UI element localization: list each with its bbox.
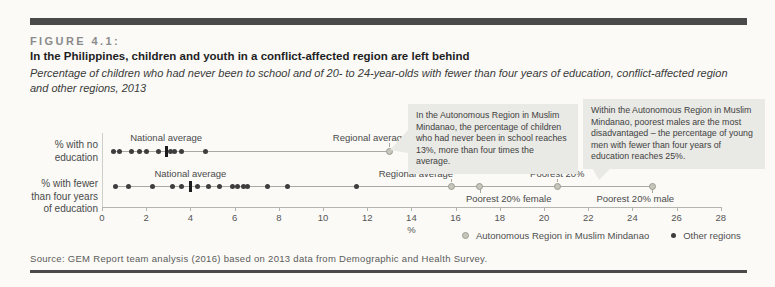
other-region-dot: [217, 184, 222, 189]
other-region-dot: [170, 184, 175, 189]
national-average-label: National average: [130, 132, 202, 143]
x-axis-tick: [721, 207, 722, 211]
x-axis-tick: [235, 207, 236, 211]
x-axis-tick-label: 20: [539, 212, 550, 223]
x-axis-tick-label: 10: [318, 212, 329, 223]
armm-marker-dot: [554, 183, 561, 190]
legend-item-other-regions: Other regions: [671, 230, 741, 241]
x-axis-tick: [279, 207, 280, 211]
other-region-dot: [285, 184, 290, 189]
other-region-dot: [111, 149, 116, 154]
x-axis-tick: [632, 207, 633, 211]
other-region-dot: [156, 149, 161, 154]
x-axis-unit-label: %: [407, 224, 415, 235]
other-region-dot: [230, 184, 235, 189]
row-label-fewer-four-years: % with fewer than four years of educatio…: [24, 178, 98, 216]
x-axis-tick-label: 0: [99, 212, 104, 223]
armm-marker-label: Poorest 20% female: [466, 193, 552, 204]
x-axis-tick: [588, 207, 589, 211]
other-region-dot: [179, 184, 184, 189]
other-region-dot: [150, 184, 155, 189]
armm-marker-icon: [462, 232, 469, 239]
x-axis-tick-label: 16: [450, 212, 461, 223]
row-connector-line: [113, 151, 389, 152]
y-axis-line: [102, 133, 103, 207]
x-axis-tick: [146, 207, 147, 211]
x-axis-tick-label: 6: [232, 212, 237, 223]
x-axis-tick-label: 22: [583, 212, 594, 223]
armm-marker-dot: [649, 183, 656, 190]
x-axis-tick: [456, 207, 457, 211]
national-average-label: National average: [154, 168, 226, 179]
national-average-tick: [165, 146, 168, 157]
row-label-no-education: % with no education: [24, 139, 98, 164]
x-axis-tick-label: 2: [144, 212, 149, 223]
armm-marker-label: Poorest 20% male: [596, 193, 674, 204]
x-axis-tick: [677, 207, 678, 211]
armm-marker-stem: [557, 179, 558, 182]
armm-marker-dot: [476, 183, 483, 190]
bottom-rule-bar: [30, 270, 747, 273]
other-region-dot: [265, 184, 270, 189]
chart-legend: Autonomous Region in Muslim Mindanao Oth…: [462, 230, 741, 241]
other-region-dot: [126, 184, 131, 189]
armm-marker-label: Regional average: [333, 132, 407, 143]
other-region-dot: [117, 149, 122, 154]
source-note: Source: GEM Report team analysis (2016) …: [30, 253, 487, 264]
armm-marker-stem: [451, 179, 452, 182]
x-axis-tick: [500, 207, 501, 211]
armm-marker-dot: [448, 183, 455, 190]
armm-marker-stem: [389, 143, 390, 147]
x-axis-tick-label: 18: [495, 212, 506, 223]
legend-label-other-regions: Other regions: [683, 230, 741, 241]
other-region-dot: [206, 184, 211, 189]
other-region-dot: [137, 149, 142, 154]
other-region-dot: [144, 149, 149, 154]
x-axis-tick: [544, 207, 545, 211]
legend-label-armm: Autonomous Region in Muslim Mindanao: [476, 230, 649, 241]
x-axis-tick-label: 28: [716, 212, 727, 223]
national-average-tick: [189, 181, 192, 192]
figure-panel: FIGURE 4.1: In the Philippines, children…: [0, 0, 775, 287]
x-axis-tick-label: 4: [188, 212, 193, 223]
other-region-dot: [235, 184, 240, 189]
x-axis-tick-label: 26: [671, 212, 682, 223]
x-axis-tick: [411, 207, 412, 211]
other-region-dot: [113, 184, 118, 189]
x-axis-tick: [323, 207, 324, 211]
other-region-dot: [245, 184, 250, 189]
annotation-never-in-school: In the Autonomous Region in Muslim Minda…: [408, 104, 578, 174]
other-region-dot: [172, 149, 177, 154]
x-axis-tick-label: 24: [627, 212, 638, 223]
other-regions-marker-icon: [671, 233, 676, 238]
other-region-dot: [179, 149, 184, 154]
annotation-poorest-males: Within the Autonomous Region in Muslim M…: [583, 99, 765, 169]
x-axis-tick: [367, 207, 368, 211]
x-axis-tick-label: 14: [406, 212, 417, 223]
other-region-dot: [129, 149, 134, 154]
other-region-dot: [354, 184, 359, 189]
other-region-dot: [203, 149, 208, 154]
other-region-dot: [195, 184, 200, 189]
armm-marker-dot: [386, 148, 393, 155]
x-axis-tick: [102, 207, 103, 211]
legend-item-armm: Autonomous Region in Muslim Mindanao: [462, 230, 649, 241]
x-axis-tick-label: 12: [362, 212, 373, 223]
x-axis-tick: [190, 207, 191, 211]
x-axis-tick-label: 8: [276, 212, 281, 223]
